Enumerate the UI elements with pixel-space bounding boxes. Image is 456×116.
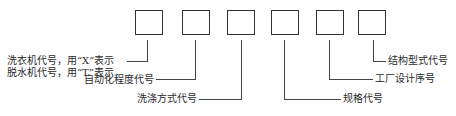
label-washer-code: 洗衣机代号，用“X”表示 (7, 55, 114, 67)
connector-box-4-horizontal (284, 99, 341, 100)
code-box-5 (316, 10, 344, 35)
connector-box-3-horizontal (199, 99, 242, 100)
code-box-3 (227, 10, 255, 35)
connector-box-2-horizontal (156, 79, 196, 80)
connector-box-6-horizontal (373, 61, 386, 62)
code-box-4 (271, 10, 299, 35)
code-box-1 (135, 10, 163, 35)
connector-box-3-vertical (241, 40, 242, 100)
connector-box-6-vertical (373, 40, 374, 62)
label-factory-design-serial: 工厂设计序号 (375, 73, 435, 85)
connector-box-1-horizontal (127, 61, 148, 62)
connector-box-1-vertical (147, 40, 148, 62)
code-box-2 (182, 10, 210, 35)
connector-box-5-horizontal (329, 79, 373, 80)
connector-box-2-vertical (195, 40, 196, 80)
label-specification-code: 规格代号 (343, 93, 383, 105)
label-automation-level-code: 自动化程度代号 (84, 74, 154, 86)
connector-box-4-vertical (284, 40, 285, 100)
connector-box-5-vertical (329, 40, 330, 80)
label-structure-type-code: 结构型式代号 (388, 55, 448, 67)
code-box-6 (358, 10, 386, 35)
label-washing-method-code: 洗涤方式代号 (137, 93, 197, 105)
code-structure-diagram: 洗衣机代号，用“X”表示 脱水机代号，用“T”表示 自动化程度代号 洗涤方式代号… (0, 0, 456, 116)
